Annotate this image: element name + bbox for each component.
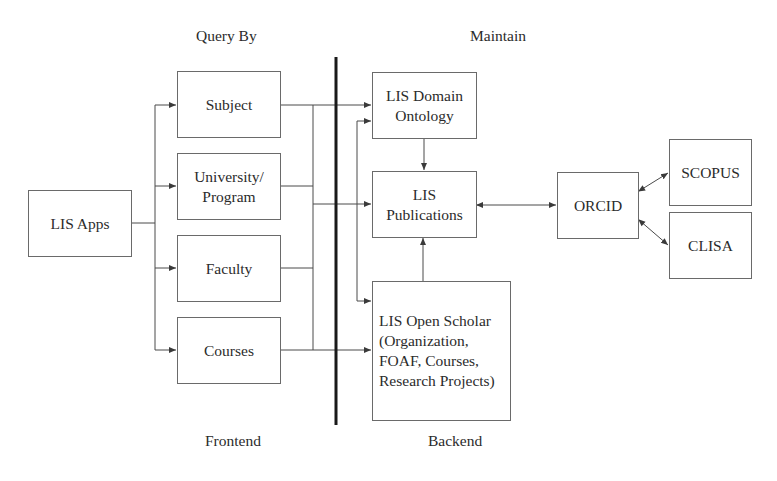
lis-open-scholar-text: LIS Open Scholar (Organization, FOAF, Co… — [379, 311, 495, 391]
subject-box: Subject — [177, 71, 281, 138]
orcid-box: ORCID — [557, 172, 639, 239]
scopus-box: SCOPUS — [669, 139, 752, 206]
faculty-box: Faculty — [177, 235, 281, 302]
lis-open-scholar-box: LIS Open Scholar (Organization, FOAF, Co… — [372, 281, 511, 421]
lis-apps-text: LIS Apps — [51, 214, 110, 234]
query-by-label: Query By — [196, 27, 257, 45]
university-program-box: University/ Program — [177, 153, 281, 220]
courses-box: Courses — [177, 317, 281, 384]
lis-publications-text: LIS Publications — [386, 185, 463, 225]
courses-text: Courses — [204, 341, 254, 361]
university-program-text: University/ Program — [194, 167, 264, 207]
subject-text: Subject — [206, 95, 253, 115]
lis-domain-ontology-box: LIS Domain Ontology — [372, 72, 477, 139]
maintain-label: Maintain — [470, 27, 526, 45]
lis-domain-ontology-text: LIS Domain Ontology — [386, 86, 463, 126]
scopus-text: SCOPUS — [681, 163, 740, 183]
backend-label: Backend — [428, 432, 482, 450]
faculty-text: Faculty — [206, 259, 253, 279]
orcid-text: ORCID — [574, 196, 622, 216]
lis-apps-box: LIS Apps — [28, 190, 132, 257]
frontend-label: Frontend — [205, 432, 261, 450]
lis-publications-box: LIS Publications — [372, 171, 477, 238]
architecture-diagram: Query By Maintain Frontend Backend LIS A… — [0, 0, 777, 481]
clisa-box: CLISA — [669, 212, 752, 279]
clisa-text: CLISA — [688, 236, 733, 256]
